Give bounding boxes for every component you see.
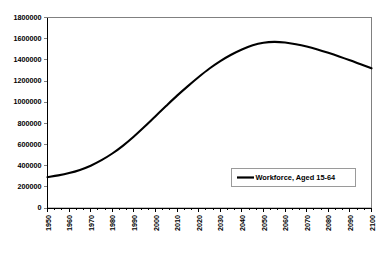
x-tick-label: 2000 bbox=[152, 215, 161, 231]
x-tick-label: 2030 bbox=[216, 215, 225, 231]
legend-label-workforce: Workforce, Aged 15-64 bbox=[256, 173, 337, 182]
x-tick-label: 2020 bbox=[195, 215, 204, 231]
y-tick-label: 1200000 bbox=[14, 76, 42, 85]
x-tick-label: 1980 bbox=[108, 215, 117, 231]
x-tick-label: 2090 bbox=[346, 215, 355, 231]
y-tick-label: 400000 bbox=[18, 161, 42, 170]
y-tick-label: 200000 bbox=[18, 182, 42, 191]
x-tick-label: 2070 bbox=[303, 215, 312, 231]
x-tick-label: 2100 bbox=[368, 215, 377, 231]
y-tick-label: 800000 bbox=[18, 119, 42, 128]
y-tick-label: 1600000 bbox=[14, 34, 42, 43]
x-tick-label: 2040 bbox=[238, 215, 247, 231]
y-tick-label: 1800000 bbox=[14, 13, 42, 22]
x-tick-label: 2060 bbox=[281, 215, 290, 231]
workforce-line-chart: 0200000400000600000800000100000012000001… bbox=[0, 0, 386, 256]
legend: Workforce, Aged 15-64 bbox=[232, 169, 356, 187]
x-tick-label: 2080 bbox=[324, 215, 333, 231]
x-tick-label: 1970 bbox=[87, 215, 96, 231]
x-tick-label: 1960 bbox=[65, 215, 74, 231]
y-tick-label: 0 bbox=[38, 203, 42, 212]
x-tick-label: 1990 bbox=[130, 215, 139, 231]
x-tick-label: 1950 bbox=[44, 215, 53, 231]
x-tick-label: 2050 bbox=[260, 215, 269, 231]
chart-container: 0200000400000600000800000100000012000001… bbox=[0, 0, 386, 256]
y-tick-label: 1000000 bbox=[14, 97, 42, 106]
x-tick-label: 2010 bbox=[173, 215, 182, 231]
y-tick-label: 1400000 bbox=[14, 55, 42, 64]
y-tick-label: 600000 bbox=[18, 140, 42, 149]
